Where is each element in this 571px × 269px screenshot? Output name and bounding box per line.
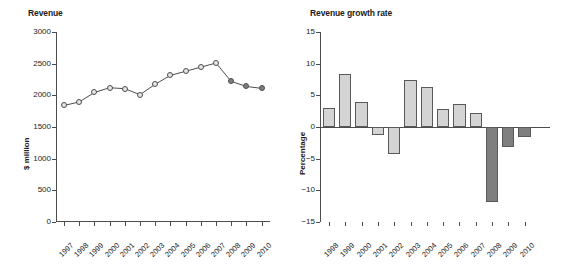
bar: [421, 87, 433, 127]
data-point-marker: [198, 64, 204, 70]
x-tick-label: 2003: [404, 241, 422, 259]
revenue-panel-title: Revenue: [28, 8, 63, 18]
bar: [323, 108, 335, 127]
x-tick-mark: [246, 222, 247, 226]
data-point-marker: [183, 68, 189, 74]
two-panel-figure: Revenue $ million 0500100015002000250030…: [0, 0, 571, 269]
bar: [453, 104, 465, 127]
growth-zero-line: [320, 127, 550, 128]
x-tick-mark: [525, 222, 526, 226]
x-tick-mark: [459, 222, 460, 226]
y-tick-label: −5: [306, 154, 315, 163]
data-point-marker: [107, 85, 113, 91]
x-tick-mark: [329, 222, 330, 226]
x-tick-mark: [262, 222, 263, 226]
x-tick-mark: [231, 222, 232, 226]
x-tick-mark: [170, 222, 171, 226]
y-tick-label: 10: [306, 59, 315, 68]
y-tick-mark: [316, 64, 320, 65]
bar: [355, 102, 367, 127]
x-tick-label: 2005: [436, 241, 454, 259]
y-tick-label: 5: [311, 90, 315, 99]
x-tick-mark: [125, 222, 126, 226]
bar: [339, 74, 351, 127]
y-tick-label: −10: [301, 185, 315, 194]
x-tick-label: 2005: [179, 241, 197, 259]
x-tick-label: 2009: [501, 241, 519, 259]
x-tick-label: 2001: [118, 241, 136, 259]
x-tick-label: 2002: [133, 241, 151, 259]
growth-plot-area: −15−10−5051015 1998199920002001200220032…: [320, 32, 550, 222]
bar: [372, 127, 384, 135]
x-tick-mark: [362, 222, 363, 226]
x-tick-mark: [94, 222, 95, 226]
growth-chart-panel: Revenue growth rate Percentage −15−10−50…: [290, 0, 571, 269]
y-tick-label: 15: [306, 27, 315, 36]
x-tick-mark: [155, 222, 156, 226]
x-tick-label: 1998: [322, 241, 340, 259]
x-tick-label: 2008: [485, 241, 503, 259]
y-tick-label: 1000: [33, 154, 51, 163]
x-tick-label: 2010: [518, 241, 536, 259]
x-tick-label: 2000: [103, 241, 121, 259]
revenue-chart-panel: Revenue $ million 0500100015002000250030…: [0, 0, 290, 269]
bar: [486, 127, 498, 202]
bar: [404, 80, 416, 128]
y-tick-mark: [316, 95, 320, 96]
x-tick-label: 2004: [163, 241, 181, 259]
x-tick-label: 1999: [338, 241, 356, 259]
y-tick-label: 0: [311, 122, 315, 131]
growth-panel-title: Revenue growth rate: [310, 8, 392, 18]
data-point-marker: [213, 60, 219, 66]
x-tick-label: 2006: [452, 241, 470, 259]
x-tick-label: 2003: [148, 241, 166, 259]
x-tick-mark: [79, 222, 80, 226]
y-tick-mark: [316, 222, 320, 223]
x-tick-mark: [508, 222, 509, 226]
y-tick-label: 0: [47, 217, 51, 226]
x-tick-label: 1998: [72, 241, 90, 259]
bar: [470, 113, 482, 127]
x-tick-label: 2009: [239, 241, 257, 259]
data-point-marker: [137, 92, 143, 98]
y-tick-label: 500: [38, 185, 51, 194]
data-point-marker: [122, 86, 128, 92]
y-tick-mark: [316, 159, 320, 160]
x-tick-mark: [443, 222, 444, 226]
x-tick-mark: [216, 222, 217, 226]
x-tick-label: 2010: [255, 241, 273, 259]
x-tick-mark: [201, 222, 202, 226]
y-tick-mark: [316, 32, 320, 33]
x-tick-mark: [378, 222, 379, 226]
x-tick-mark: [411, 222, 412, 226]
x-tick-mark: [476, 222, 477, 226]
y-tick-label: 3000: [33, 27, 51, 36]
x-tick-label: 2004: [420, 241, 438, 259]
x-tick-label: 2002: [387, 241, 405, 259]
data-point-marker: [259, 85, 265, 91]
x-tick-label: 2007: [209, 241, 227, 259]
bar: [388, 127, 400, 154]
y-tick-mark: [316, 190, 320, 191]
bar: [502, 127, 514, 147]
y-tick-label: −15: [301, 217, 315, 226]
x-tick-mark: [345, 222, 346, 226]
x-tick-mark: [140, 222, 141, 226]
revenue-plot-area: 050010001500200025003000 199719981999200…: [56, 32, 270, 222]
x-tick-mark: [64, 222, 65, 226]
y-tick-label: 2500: [33, 59, 51, 68]
x-tick-label: 1999: [87, 241, 105, 259]
y-tick-mark: [52, 222, 56, 223]
x-tick-mark: [427, 222, 428, 226]
x-tick-mark: [394, 222, 395, 226]
bar: [437, 109, 449, 127]
x-tick-label: 2001: [371, 241, 389, 259]
y-tick-label: 1500: [33, 122, 51, 131]
x-tick-label: 1997: [57, 241, 75, 259]
revenue-y-axis-label: $ million: [22, 138, 31, 170]
x-tick-mark: [110, 222, 111, 226]
y-tick-label: 2000: [33, 90, 51, 99]
x-tick-mark: [186, 222, 187, 226]
x-tick-label: 2006: [194, 241, 212, 259]
revenue-series-line: [56, 32, 270, 222]
